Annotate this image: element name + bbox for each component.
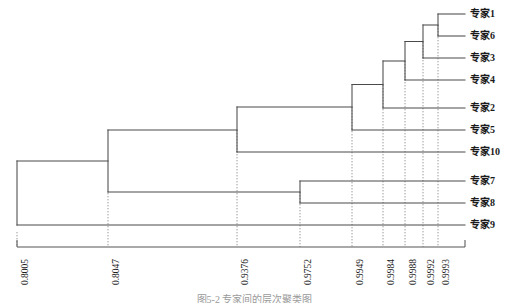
x-tick-label-0.9752: 0.9752 xyxy=(304,259,314,285)
x-tick-label-0.8005: 0.8005 xyxy=(21,259,31,285)
leaf-label-expert8: 专家8 xyxy=(470,198,495,208)
x-tick-label-0.9984: 0.9984 xyxy=(387,259,397,285)
leaf-label-expert3: 专家3 xyxy=(470,53,495,63)
x-tick-label-0.9993: 0.9993 xyxy=(442,259,452,285)
dendrogram-tree xyxy=(17,14,465,225)
x-tick-label-0.8047: 0.8047 xyxy=(112,259,122,285)
leaf-label-expert4: 专家4 xyxy=(470,75,495,85)
leaf-label-expert6: 专家6 xyxy=(470,31,495,41)
dendrogram-plot xyxy=(0,0,509,303)
leaf-label-expert9: 专家9 xyxy=(470,220,495,230)
leaf-label-expert2: 专家2 xyxy=(470,103,495,113)
x-tick-label-0.9992: 0.9992 xyxy=(427,259,437,285)
x-tick-label-0.9376: 0.9376 xyxy=(241,259,251,285)
leaf-label-expert10: 专家10 xyxy=(470,147,500,157)
leaf-label-expert7: 专家7 xyxy=(470,176,495,186)
x-tick-label-0.9988: 0.9988 xyxy=(409,259,419,285)
grid-lines xyxy=(17,25,438,247)
leaf-label-expert1: 专家1 xyxy=(470,9,495,19)
figure-container: 专家1 专家6 专家3 专家4 专家2 专家5 专家10 专家7 专家8 专家9… xyxy=(0,0,509,303)
x-axis xyxy=(17,240,465,247)
x-tick-label-0.9949: 0.9949 xyxy=(356,259,366,285)
leaf-label-expert5: 专家5 xyxy=(470,125,495,135)
figure-caption: 图5-2 专家间的层次聚类图 xyxy=(0,291,509,303)
